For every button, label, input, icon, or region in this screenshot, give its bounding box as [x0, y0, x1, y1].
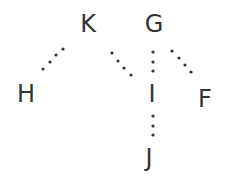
- node-g: G: [145, 12, 164, 36]
- edge-i-j: [151, 114, 154, 136]
- edge-k-h: [41, 47, 64, 70]
- edge-dot: [116, 59, 119, 62]
- edge-dot: [151, 114, 154, 117]
- node-i: I: [148, 82, 155, 106]
- edge-dot: [177, 56, 180, 59]
- edge-dot: [183, 63, 186, 66]
- edge-dot: [61, 47, 64, 50]
- node-k: K: [80, 12, 96, 36]
- edge-dot: [122, 66, 125, 69]
- edge-k-i: [110, 51, 132, 76]
- tree-diagram: K G H I F J: [0, 0, 225, 179]
- edge-dot: [54, 53, 57, 56]
- node-h: H: [17, 82, 35, 106]
- edge-dot: [170, 49, 173, 52]
- node-j: J: [145, 146, 152, 170]
- edge-dot: [151, 69, 154, 72]
- edge-dot: [151, 50, 154, 53]
- edge-dot: [151, 133, 154, 136]
- node-f: F: [198, 87, 212, 111]
- edge-dot: [110, 51, 113, 54]
- edge-g-i: [151, 50, 154, 72]
- edge-dot: [151, 124, 154, 127]
- edge-dot: [189, 70, 192, 73]
- edge-dot: [41, 67, 44, 70]
- edge-g-f: [170, 49, 192, 73]
- edge-dot: [48, 60, 51, 63]
- edge-dot: [151, 60, 154, 63]
- edge-dot: [129, 73, 132, 76]
